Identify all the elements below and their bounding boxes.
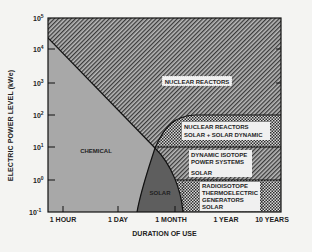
x-tick-1-month: 1 MONTH — [155, 216, 187, 223]
label-dips-2: POWER SYSTEMS — [191, 159, 244, 165]
y-tick-1e1: 101 — [33, 142, 44, 151]
y-tick-labels: 105 104 103 102 101 100 10-1 — [29, 13, 44, 216]
label-dips-1: DYNAMIC ISOTOPE — [191, 152, 247, 158]
y-axis-title-text: ELECTRIC POWER LEVEL (kWe) — [8, 69, 15, 180]
y-tick-1e4: 104 — [33, 44, 44, 53]
label-nuc-solar-2: SOLAR + SOLAR DYNAMIC — [184, 132, 263, 138]
y-tick-1e-1: 10-1 — [29, 207, 41, 216]
label-rtg-4: SOLAR — [202, 204, 224, 210]
y-axis-title: ELECTRIC POWER LEVEL (kWe) — [4, 40, 18, 210]
y-tick-1e2: 102 — [33, 110, 44, 119]
label-dips-3: SOLAR — [191, 170, 213, 176]
y-tick-1e0: 100 — [33, 175, 44, 184]
label-solar: SOLAR — [150, 190, 172, 196]
x-tick-1-year: 1 YEAR — [213, 216, 238, 223]
label-rtg-1: RADIOISOTOPE — [202, 183, 248, 189]
x-tick-labels: 1 HOUR 1 DAY 1 MONTH 1 YEAR 10 YEARS — [50, 216, 289, 223]
x-tick-1-hour: 1 HOUR — [50, 216, 76, 223]
x-axis-title: DURATION OF USE — [48, 230, 281, 237]
chart: 105 104 103 102 101 100 10-1 1 HOUR 1 DA… — [0, 0, 312, 252]
label-chemical: CHEMICAL — [80, 148, 112, 154]
chart-svg: 105 104 103 102 101 100 10-1 1 HOUR 1 DA… — [0, 0, 312, 252]
label-nuc-solar-1: NUCLEAR REACTORS — [184, 124, 249, 130]
y-tick-1e3: 103 — [33, 78, 44, 87]
label-rtg-2: THERMOELECTRIC — [202, 190, 259, 196]
y-tick-1e5: 105 — [33, 13, 44, 22]
label-nuclear-reactors: NUCLEAR REACTORS — [165, 79, 230, 85]
label-rtg-3: GENERATORS — [202, 197, 244, 203]
x-tick-10-years: 10 YEARS — [255, 216, 289, 223]
x-tick-1-day: 1 DAY — [108, 216, 128, 223]
